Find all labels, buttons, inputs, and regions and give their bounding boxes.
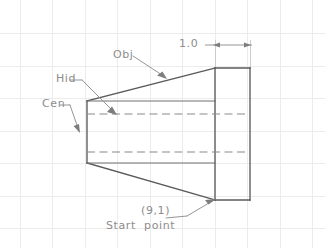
start-point-leader-arrow-icon [205, 199, 216, 205]
cen-leader-arrow-icon [74, 124, 81, 133]
start-coordinate-label: (9,1) [141, 205, 170, 216]
dimension-value-label: 1.0 [179, 38, 198, 49]
cen-label: Cen [42, 98, 65, 109]
dimension-arrow-left-icon [213, 42, 220, 47]
hid-label: Hid [56, 73, 76, 84]
cad-drawing-canvas: 1.0 Obj Hid Cen (9,1) Start point [0, 0, 325, 248]
obj-label: Obj [113, 49, 134, 60]
taper-top-slant-edge [87, 68, 215, 101]
start-point-label: Start point [106, 220, 175, 231]
dimension-1-0 [205, 42, 252, 47]
hidden-lines-layer [87, 114, 250, 152]
object-outline-layer [87, 68, 250, 200]
taper-bottom-slant-edge [87, 163, 215, 200]
